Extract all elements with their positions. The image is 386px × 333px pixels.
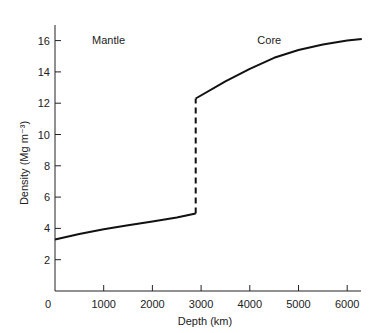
y-tick-label: 10 (38, 129, 50, 141)
y-tick-label: 8 (44, 160, 50, 172)
annotations: MantleCore (92, 34, 281, 46)
series-mantle (55, 214, 196, 240)
y-ticks: 246810121416 (38, 35, 61, 266)
x-axis-label: Depth (km) (178, 315, 232, 327)
y-tick-label: 4 (44, 222, 50, 234)
x-tick-label: 2000 (140, 298, 164, 310)
x-tick-label: 0 (45, 298, 51, 310)
density-depth-chart: 246810121416 0100020003000400050006000 M… (0, 0, 386, 333)
x-tick-label: 6000 (335, 298, 359, 310)
annotation-core: Core (257, 34, 281, 46)
y-tick-label: 12 (38, 97, 50, 109)
y-tick-label: 6 (44, 191, 50, 203)
x-tick-label: 5000 (286, 298, 310, 310)
x-tick-label: 4000 (238, 298, 262, 310)
y-tick-label: 16 (38, 35, 50, 47)
x-tick-label: 1000 (91, 298, 115, 310)
axes (55, 25, 361, 291)
annotation-mantle: Mantle (92, 34, 125, 46)
y-tick-label: 14 (38, 66, 50, 78)
x-ticks: 0100020003000400050006000 (45, 285, 360, 310)
x-tick-label: 3000 (189, 298, 213, 310)
series-core (196, 39, 362, 99)
series-lines (55, 39, 362, 239)
y-axis-label: Density (Mg m⁻³) (18, 121, 30, 205)
y-tick-label: 2 (44, 254, 50, 266)
